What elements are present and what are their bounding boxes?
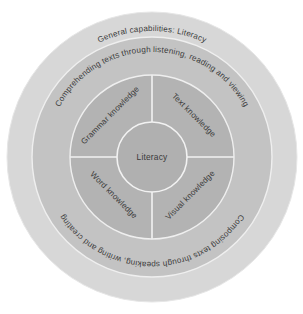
literacy-diagram: General capabilities: Literacy Comprehen… <box>0 0 303 314</box>
core-label: Literacy <box>137 152 169 162</box>
concentric-circles-diagram: General capabilities: Literacy Comprehen… <box>0 0 303 314</box>
